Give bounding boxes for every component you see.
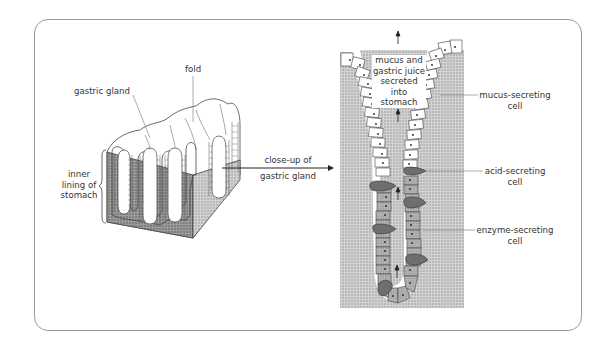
label-close-up: close-up of — [255, 155, 321, 166]
label-secretion-line1: mucus and — [372, 55, 426, 66]
label-inner-lining-line2: lining of — [57, 180, 101, 191]
label-mucus-cell-line1: mucus-secreting — [479, 90, 551, 101]
stomach-wall-block — [107, 99, 240, 238]
label-close-up-line2: gastric gland — [255, 171, 321, 182]
label-secretion-line3: secreted — [372, 76, 426, 87]
label-enzyme-cell-line1: enzyme-secreting — [476, 225, 554, 236]
label-acid-cell: acid-secreting cell — [482, 166, 548, 187]
label-fold: fold — [185, 64, 201, 75]
label-secretion-line2: gastric juice — [372, 66, 426, 77]
label-enzyme-cell-line2: cell — [476, 236, 554, 247]
label-gastric-gland: gastric gland — [74, 86, 130, 97]
label-enzyme-cell: enzyme-secreting cell — [476, 225, 554, 246]
label-inner-lining-line3: stomach — [57, 190, 101, 201]
label-secretion-line5: stomach — [372, 97, 426, 108]
label-close-up-line1: close-up of — [255, 155, 321, 166]
label-inner-lining-line1: inner — [57, 169, 101, 180]
label-close-up-gland: gastric gland — [255, 171, 321, 182]
label-inner-lining: inner lining of stomach — [57, 169, 101, 201]
label-mucus-cell: mucus-secreting cell — [479, 90, 551, 111]
label-acid-cell-line2: cell — [482, 177, 548, 188]
label-secretion: mucus and gastric juice secreted into st… — [372, 55, 426, 108]
label-mucus-cell-line2: cell — [479, 101, 551, 112]
label-secretion-line4: into — [372, 87, 426, 98]
label-acid-cell-line1: acid-secreting — [482, 166, 548, 177]
